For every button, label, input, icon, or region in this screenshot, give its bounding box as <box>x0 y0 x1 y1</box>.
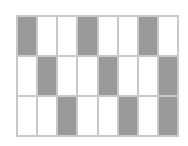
grid-cell-r3-c3 <box>57 96 77 136</box>
grid-cell-r3-c2 <box>37 96 57 136</box>
grid-cell-r2-c8 <box>158 56 178 96</box>
grid-cell-r1-c3 <box>57 16 77 56</box>
grid-cell-r1-c6 <box>118 16 138 56</box>
grid-cell-r2-c1 <box>17 56 37 96</box>
shaded-grid <box>16 15 179 137</box>
grid-cell-r2-c3 <box>57 56 77 96</box>
grid-cell-r3-c5 <box>98 96 118 136</box>
grid-cell-r3-c1 <box>17 96 37 136</box>
grid-cell-r2-c4 <box>77 56 97 96</box>
grid-cell-r1-c4 <box>77 16 97 56</box>
grid-cell-r2-c6 <box>118 56 138 96</box>
grid-cell-r1-c1 <box>17 16 37 56</box>
grid-cell-r3-c4 <box>77 96 97 136</box>
grid-cell-r2-c2 <box>37 56 57 96</box>
grid-cell-r3-c8 <box>158 96 178 136</box>
grid-cell-r3-c7 <box>138 96 158 136</box>
grid-cell-r1-c8 <box>158 16 178 56</box>
grid-cell-r1-c2 <box>37 16 57 56</box>
grid-cell-r1-c5 <box>98 16 118 56</box>
grid-cell-r2-c7 <box>138 56 158 96</box>
grid-cell-r1-c7 <box>138 16 158 56</box>
grid-cell-r3-c6 <box>118 96 138 136</box>
grid-cell-r2-c5 <box>98 56 118 96</box>
